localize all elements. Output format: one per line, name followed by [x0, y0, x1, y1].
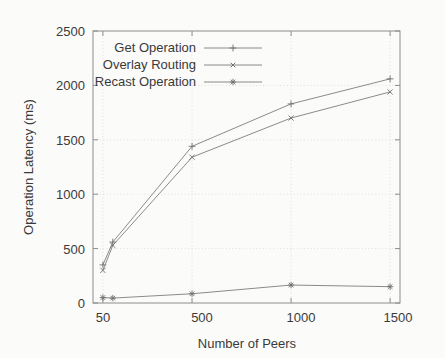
- x-tick-label: 1500: [384, 310, 413, 325]
- legend-label-get-operation: Get Operation: [114, 40, 196, 55]
- y-axis-tick-labels: 2500 2000 1500 1000 500 0: [56, 24, 85, 311]
- legend-sample-get-operation: [204, 45, 262, 52]
- x-tick-label: 50: [96, 310, 110, 325]
- data-point-marker: [387, 75, 394, 82]
- legend-sample-overlay-routing: [204, 60, 262, 69]
- series-group: [100, 75, 394, 301]
- legend-label-recast-operation: Recast Operation: [95, 74, 196, 89]
- data-point-marker: [387, 283, 393, 289]
- y-tick-label: 500: [63, 242, 85, 257]
- legend-sample-recast-operation: [204, 79, 262, 85]
- series-recast-operation: [100, 282, 394, 301]
- data-point-marker: [100, 294, 106, 300]
- series-line: [103, 79, 390, 265]
- x-tick-label: 1000: [287, 310, 316, 325]
- data-point-marker: [100, 268, 105, 273]
- series-get-operation: [100, 75, 394, 268]
- data-point-marker: [288, 282, 294, 288]
- y-tick-label: 2500: [56, 24, 85, 39]
- legend: Get Operation Overlay Routing Recast Ope…: [95, 40, 262, 89]
- data-point-marker: [189, 291, 195, 297]
- y-tick-label: 1000: [56, 187, 85, 202]
- y-tick-label: 2000: [56, 78, 85, 93]
- x-axis-tick-labels: 50 500 1000 1500: [96, 310, 413, 325]
- chart-figure: 2500 2000 1500 1000 500 0 50 500 1000 15…: [0, 0, 445, 358]
- data-point-marker: [110, 295, 116, 301]
- series-overlay-routing: [100, 89, 392, 273]
- y-axis-title: Operation Latency (ms): [21, 99, 36, 235]
- line-chart: 2500 2000 1500 1000 500 0 50 500 1000 15…: [0, 0, 445, 358]
- x-axis-title: Number of Peers: [198, 336, 297, 351]
- legend-label-overlay-routing: Overlay Routing: [103, 57, 196, 72]
- data-point-marker: [387, 89, 392, 94]
- y-tick-label: 1500: [56, 133, 85, 148]
- x-tick-label: 500: [191, 310, 213, 325]
- series-line: [103, 285, 390, 298]
- y-tick-label: 0: [78, 296, 85, 311]
- data-point-marker: [189, 155, 194, 160]
- data-point-marker: [288, 100, 295, 107]
- series-line: [103, 92, 390, 270]
